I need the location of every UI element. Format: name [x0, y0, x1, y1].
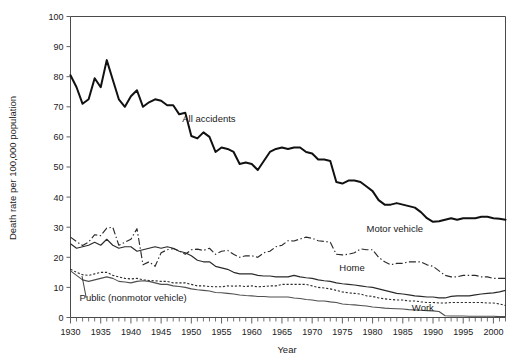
y-tick-label: 0	[58, 313, 63, 323]
series-label-work: Work	[412, 302, 434, 313]
x-tick-label: 1990	[423, 327, 443, 337]
x-axis-tick-labels: 1930193519401945195019551960196519701975…	[60, 327, 503, 337]
x-tick-label: 1970	[302, 327, 322, 337]
x-tick-label: 1930	[60, 327, 80, 337]
y-tick-label: 40	[53, 193, 63, 203]
x-tick-label: 1965	[272, 327, 292, 337]
y-tick-label: 20	[53, 253, 63, 263]
series-label-public-nonmotor-vehicle: Public (nonmotor vehicle)	[80, 292, 187, 303]
x-axis-title: Year	[277, 344, 296, 355]
x-tick-label: 1980	[363, 327, 383, 337]
x-tick-label: 1935	[91, 327, 111, 337]
y-tick-label: 70	[53, 102, 63, 112]
y-axis-title: Death rate per 100,000 population	[7, 96, 18, 240]
y-tick-label: 50	[53, 162, 63, 172]
series-label-all-accidents: All accidents	[182, 113, 236, 124]
series-label-motor-vehicle: Motor vehicle	[367, 223, 424, 234]
chart-figure: 0102030405060708090100 19301935194019451…	[0, 0, 517, 360]
y-tick-label: 90	[53, 42, 63, 52]
figure-background	[0, 0, 517, 360]
x-tick-label: 1940	[121, 327, 141, 337]
x-tick-label: 1950	[181, 327, 201, 337]
x-tick-label: 1945	[151, 327, 171, 337]
y-tick-label: 60	[53, 132, 63, 142]
x-tick-label: 2000	[483, 327, 503, 337]
x-tick-label: 1960	[242, 327, 262, 337]
y-tick-label: 100	[48, 12, 63, 22]
y-tick-label: 80	[53, 72, 63, 82]
y-tick-label: 30	[53, 223, 63, 233]
x-tick-label: 1985	[393, 327, 413, 337]
line-chart-svg: 0102030405060708090100 19301935194019451…	[0, 0, 517, 360]
x-tick-label: 1955	[212, 327, 232, 337]
x-tick-label: 1995	[453, 327, 473, 337]
y-tick-label: 10	[53, 283, 63, 293]
series-label-home: Home	[339, 262, 364, 273]
x-tick-label: 1975	[332, 327, 352, 337]
